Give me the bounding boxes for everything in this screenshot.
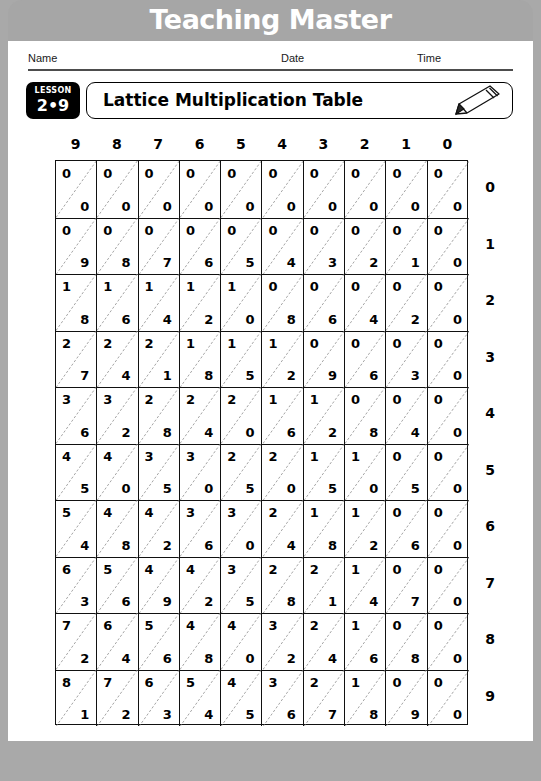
pencil-icon <box>444 83 506 118</box>
lattice-cell: 09 <box>386 670 427 727</box>
ones-digit: 2 <box>163 538 172 553</box>
column-header: 0 <box>427 136 468 152</box>
ones-digit: 8 <box>328 538 337 553</box>
lattice-cell: 03 <box>304 218 345 275</box>
tens-digit: 4 <box>227 675 236 690</box>
ones-digit: 6 <box>369 368 378 383</box>
table-row: 45403530252015100500 <box>56 444 469 502</box>
row-header: 6 <box>468 518 512 534</box>
lattice-cell: 28 <box>139 387 180 444</box>
ones-digit: 8 <box>204 368 213 383</box>
worksheet-title-bar: Lattice Multiplication Table <box>86 82 513 119</box>
ones-digit: 1 <box>328 594 337 609</box>
ones-digit: 0 <box>411 199 420 214</box>
lattice-cell: 54 <box>180 670 221 727</box>
tens-digit: 2 <box>310 675 319 690</box>
tens-digit: 0 <box>434 505 443 520</box>
lattice-cell: 09 <box>304 331 345 388</box>
ones-digit: 0 <box>369 199 378 214</box>
tens-digit: 0 <box>145 166 154 181</box>
lattice-cell: 06 <box>345 331 386 388</box>
lattice-cell: 30 <box>180 444 221 501</box>
lattice-cell: 00 <box>428 613 469 670</box>
ones-digit: 8 <box>80 312 89 327</box>
ones-digit: 4 <box>163 312 172 327</box>
tens-digit: 0 <box>392 336 401 351</box>
lattice-cell: 45 <box>221 670 262 727</box>
name-label: Name <box>28 52 57 64</box>
ones-digit: 2 <box>369 255 378 270</box>
tens-digit: 0 <box>434 166 443 181</box>
ones-digit: 0 <box>453 594 462 609</box>
tens-digit: 0 <box>310 223 319 238</box>
ones-digit: 4 <box>80 538 89 553</box>
table-row: 54484236302418120600 <box>56 500 469 558</box>
lattice-cell: 20 <box>221 387 262 444</box>
tens-digit: 0 <box>310 336 319 351</box>
tens-digit: 0 <box>392 618 401 633</box>
tens-digit: 2 <box>269 562 278 577</box>
tens-digit: 0 <box>434 618 443 633</box>
lattice-cell: 00 <box>345 161 386 218</box>
lattice-cell: 24 <box>263 500 304 557</box>
ones-digit: 5 <box>245 707 254 722</box>
ones-digit: 8 <box>163 425 172 440</box>
lattice-cell: 18 <box>180 331 221 388</box>
ones-digit: 5 <box>245 594 254 609</box>
tens-digit: 0 <box>351 223 360 238</box>
ones-digit: 2 <box>80 651 89 666</box>
ones-digit: 5 <box>245 481 254 496</box>
ones-digit: 0 <box>245 538 254 553</box>
ones-digit: 4 <box>411 425 420 440</box>
lattice-cell: 12 <box>263 331 304 388</box>
lattice-cell: 42 <box>139 500 180 557</box>
ones-digit: 6 <box>163 651 172 666</box>
ones-digit: 2 <box>287 368 296 383</box>
tens-digit: 0 <box>269 279 278 294</box>
lattice-cell: 18 <box>304 500 345 557</box>
ones-digit: 3 <box>163 707 172 722</box>
lattice-cell: 00 <box>428 218 469 275</box>
tens-digit: 0 <box>392 392 401 407</box>
ones-digit: 4 <box>328 651 337 666</box>
ones-digit: 5 <box>411 481 420 496</box>
tens-digit: 4 <box>186 562 195 577</box>
tens-digit: 1 <box>62 279 71 294</box>
row-header-column: 0123456789 <box>468 160 512 725</box>
ones-digit: 0 <box>453 425 462 440</box>
lattice-cell: 00 <box>428 500 469 557</box>
ones-digit: 2 <box>369 538 378 553</box>
ones-digit: 0 <box>453 368 462 383</box>
lattice-cell: 63 <box>139 670 180 727</box>
lattice-cell: 07 <box>139 218 180 275</box>
tens-digit: 7 <box>62 618 71 633</box>
tens-digit: 0 <box>269 166 278 181</box>
table-row: 09080706050403020100 <box>56 218 469 276</box>
ones-digit: 9 <box>328 368 337 383</box>
lattice-cell: 14 <box>345 557 386 614</box>
tens-digit: 6 <box>62 562 71 577</box>
tens-digit: 1 <box>310 505 319 520</box>
ones-digit: 6 <box>80 425 89 440</box>
info-underline <box>28 69 513 71</box>
tens-digit: 0 <box>351 166 360 181</box>
ones-digit: 0 <box>122 199 131 214</box>
ones-digit: 8 <box>369 707 378 722</box>
ones-digit: 0 <box>287 481 296 496</box>
column-header: 2 <box>344 136 385 152</box>
tens-digit: 0 <box>392 223 401 238</box>
table-row: 36322824201612080400 <box>56 387 469 445</box>
ones-digit: 4 <box>369 312 378 327</box>
lattice-cell: 06 <box>304 274 345 331</box>
lattice-cell: 12 <box>180 274 221 331</box>
ones-digit: 3 <box>80 594 89 609</box>
table-row: 00000000000000000000 <box>56 161 469 219</box>
tens-digit: 1 <box>269 392 278 407</box>
tens-digit: 1 <box>145 279 154 294</box>
lattice-cell: 35 <box>139 444 180 501</box>
tens-digit: 2 <box>145 336 154 351</box>
lattice-cell: 00 <box>180 161 221 218</box>
tens-digit: 1 <box>186 336 195 351</box>
row-header: 8 <box>468 631 512 647</box>
lesson-number: 2•9 <box>26 97 80 115</box>
